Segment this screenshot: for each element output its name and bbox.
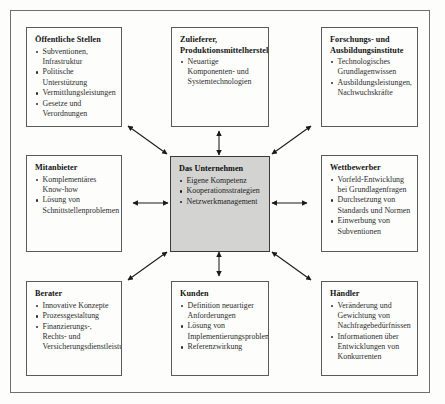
node-zulieferer[interactable]: Zulieferer, Produktionsmittelhersteller … <box>171 27 269 127</box>
node-item-list: Komplementäres Know-how Lösung von Schni… <box>35 175 115 216</box>
node-wettbewerber[interactable]: Wettbewerber Vorfeld-Entwicklung bei Gru… <box>321 155 418 252</box>
list-item: Netzwerkmanagement <box>179 197 263 207</box>
node-kunden[interactable]: Kunden Definition neuartiger Anforderung… <box>171 281 269 376</box>
list-item: Eigene Kompetenz <box>179 176 263 186</box>
list-item: Referenzwirkung <box>180 342 262 352</box>
node-das-unternehmen[interactable]: Das Unternehmen Eigene Kompetenz Koopera… <box>170 156 270 252</box>
node-title: Berater <box>35 289 115 300</box>
list-item: Neuartige Komponenten- und Systemtechnol… <box>180 57 262 88</box>
list-item: Finanzierungs-, Rechts- und Versicherung… <box>35 322 115 353</box>
list-item: Informationen über Entwicklungen von Kon… <box>330 332 411 363</box>
node-mitanbieter[interactable]: Mitanbieter Komplementäres Know-how Lösu… <box>26 155 122 252</box>
node-item-list: Definition neuartiger Anforderungen Lösu… <box>180 301 262 353</box>
list-item: Innovative Konzepte <box>35 301 115 311</box>
list-item: Gesetze und Verordnungen <box>35 99 115 119</box>
list-item: Lösung von Schnittstellenproblemen <box>35 195 115 215</box>
list-item: Vorfeld-Entwicklung bei Grundlagenfragen <box>330 175 411 195</box>
list-item: Kooperationsstrategien <box>179 186 263 196</box>
node-title: Mitanbieter <box>35 163 115 174</box>
node-title: Händler <box>330 289 411 300</box>
node-title: Öffentliche Stellen <box>35 35 115 46</box>
list-item: Vermittlungsleistungen <box>35 88 115 98</box>
node-item-list: Innovative Konzepte Prozessgestaltung Fi… <box>35 301 115 353</box>
node-item-list: Neuartige Komponenten- und Systemtechnol… <box>180 57 262 88</box>
list-item: Definition neuartiger Anforderungen <box>180 301 262 321</box>
node-berater[interactable]: Berater Innovative Konzepte Prozessgesta… <box>26 281 122 376</box>
node-title: Kunden <box>180 289 262 300</box>
node-item-list: Eigene Kompetenz Kooperationsstrategien … <box>179 176 263 208</box>
diagram-page: Öffentliche Stellen Subventionen, Infras… <box>0 0 445 404</box>
node-item-list: Subventionen, Infrastruktur Politische U… <box>35 47 115 120</box>
node-title: Zulieferer, Produktionsmittelhersteller <box>180 35 262 56</box>
list-item: Einwerbung von Subventionen <box>330 216 411 236</box>
node-title: Das Unternehmen <box>179 164 263 175</box>
node-item-list: Technologisches Grundlagenwissen Ausbild… <box>330 57 411 98</box>
node-forschungsinstitute[interactable]: Forschungs- und Ausbildungsinstitute Tec… <box>321 27 418 127</box>
list-item: Durchsetzung von Standards und Normen <box>330 195 411 215</box>
node-oeffentliche-stellen[interactable]: Öffentliche Stellen Subventionen, Infras… <box>26 27 122 127</box>
list-item: Veränderung und Gewichtung von Nachfrage… <box>330 301 411 332</box>
list-item: Subventionen, Infrastruktur <box>35 47 115 67</box>
list-item: Lösung von Implementierungsproblemen <box>180 321 262 341</box>
list-item: Ausbildungsleistungen, Nachwuchskräfte <box>330 78 411 98</box>
node-item-list: Veränderung und Gewichtung von Nachfrage… <box>330 301 411 363</box>
node-haendler[interactable]: Händler Veränderung und Gewichtung von N… <box>321 281 418 376</box>
node-title: Wettbewerber <box>330 163 411 174</box>
node-item-list: Vorfeld-Entwicklung bei Grundlagenfragen… <box>330 175 411 237</box>
list-item: Technologisches Grundlagenwissen <box>330 57 411 77</box>
list-item: Politische Unterstützung <box>35 67 115 87</box>
node-title: Forschungs- und Ausbildungsinstitute <box>330 35 411 56</box>
list-item: Komplementäres Know-how <box>35 175 115 195</box>
list-item: Prozessgestaltung <box>35 311 115 321</box>
